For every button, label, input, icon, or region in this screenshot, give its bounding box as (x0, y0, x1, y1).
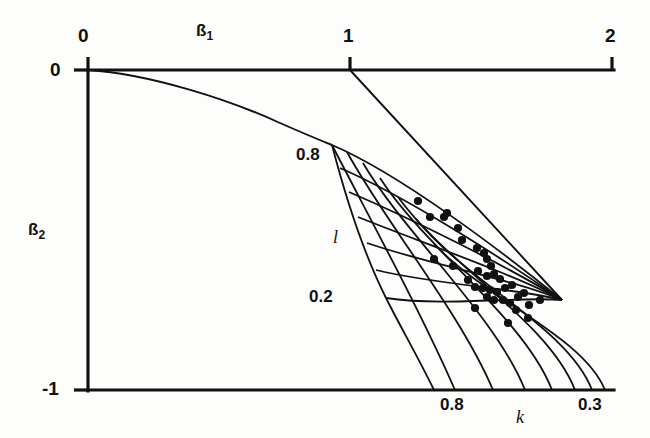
data-point (493, 288, 501, 296)
scatter-points-layer (414, 197, 544, 327)
top-axis-name: ß1 (196, 22, 213, 42)
data-point (486, 286, 494, 294)
top-axis-name-base: ß (196, 21, 206, 40)
left-axis-name-sub: 2 (38, 228, 45, 242)
data-point (426, 213, 434, 221)
boundary-curve-path (88, 70, 332, 145)
data-point (454, 224, 462, 232)
axis-ticks (74, 57, 612, 390)
nomogram-figure: ß1 0 1 2 0 -1 ß2 0.8 0.2 l 0.8 0.3 k (0, 0, 650, 438)
l-grid-label-lower: 0.2 (309, 288, 333, 305)
data-point (504, 319, 512, 327)
data-point (483, 255, 491, 263)
k-line-0.35 (416, 219, 592, 390)
top-axis-name-sub: 1 (206, 29, 213, 43)
l-parameter-label: l (333, 228, 338, 246)
data-point (474, 267, 482, 275)
data-point (464, 276, 472, 284)
data-point (506, 299, 514, 307)
data-point (512, 306, 520, 314)
left-tick-label-minus1: -1 (42, 379, 59, 398)
plot-canvas (0, 0, 650, 438)
data-point (471, 283, 479, 291)
left-tick-label-0: 0 (50, 60, 61, 79)
top-tick-label-1: 1 (343, 26, 354, 45)
data-point (473, 244, 481, 252)
data-point (458, 236, 466, 244)
data-point (525, 301, 533, 309)
left-axis-name: ß2 (28, 221, 45, 241)
data-point (449, 262, 457, 270)
top-tick-label-0: 0 (78, 26, 89, 45)
k-grid-label-right: 0.3 (578, 396, 602, 413)
data-point (479, 284, 487, 292)
data-point (490, 296, 498, 304)
left-axis-name-base: ß (28, 220, 38, 239)
l-grid-label-upper: 0.8 (296, 146, 320, 163)
data-point (443, 209, 451, 217)
axis-lines (88, 70, 614, 391)
data-point (499, 296, 507, 304)
data-point (508, 281, 516, 289)
data-point (536, 296, 544, 304)
data-point (487, 262, 495, 270)
stability-boundary-curve (88, 70, 332, 145)
data-point (520, 289, 528, 297)
data-point (471, 304, 479, 312)
data-point (524, 314, 532, 322)
k-parameter-label: k (516, 408, 524, 426)
top-tick-label-2: 2 (605, 26, 616, 45)
k-grid-label-left: 0.8 (440, 396, 464, 413)
data-point (430, 255, 438, 263)
data-point (483, 293, 491, 301)
k-line-0.8 (332, 145, 455, 390)
data-point (414, 197, 422, 205)
data-point (483, 272, 491, 280)
data-point (496, 275, 504, 283)
data-point (501, 284, 509, 292)
